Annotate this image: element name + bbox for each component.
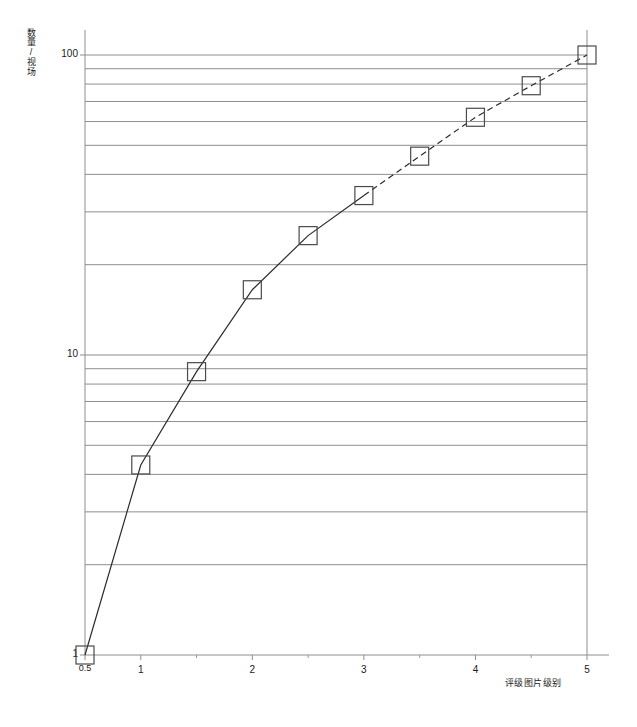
data-marker [466,108,484,126]
chart-figure: 数量/视场 评级图片级别 110100 0.512345 [0,0,637,727]
axis-lines [85,30,609,655]
data-marker [411,147,429,165]
plot-area [0,0,637,727]
y-tick-marks [80,55,85,655]
x-tick-marks [85,655,587,660]
gridline-group [85,55,587,565]
